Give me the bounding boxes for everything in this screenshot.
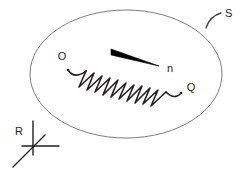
label-surface: S <box>225 7 232 19</box>
label-normal-vector: n <box>167 62 173 74</box>
diagram-svg: S O Q n R <box>0 0 243 172</box>
spring-path <box>67 69 183 106</box>
surface-ellipse <box>30 10 222 138</box>
label-reference-frame: R <box>15 125 23 137</box>
figure-canvas: S O Q n R <box>0 0 243 172</box>
label-end-point: Q <box>187 81 196 93</box>
label-start-point: O <box>58 50 67 62</box>
normal-vector-arrow-icon <box>111 49 159 66</box>
surface-label-leader-icon <box>206 13 221 28</box>
